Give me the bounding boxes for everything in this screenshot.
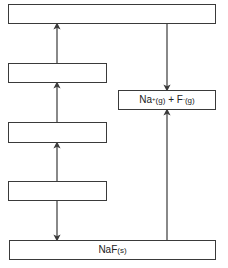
energy-level-left-2 bbox=[8, 63, 107, 83]
plus-joiner: + bbox=[165, 95, 176, 105]
energy-level-left-4 bbox=[8, 181, 107, 201]
sodium-ion-state: (g) bbox=[156, 97, 166, 105]
naf-state: (s) bbox=[117, 247, 126, 255]
sodium-ion-symbol: Na bbox=[139, 95, 152, 105]
energy-level-left-3 bbox=[8, 122, 107, 143]
energy-level-top bbox=[8, 4, 216, 24]
solid-compound-box: NaF(s) bbox=[9, 240, 216, 260]
fluoride-ion-state: (g) bbox=[185, 97, 195, 105]
gaseous-ions-box: Na+(g) + F-(g) bbox=[118, 90, 216, 110]
naf-symbol: NaF bbox=[98, 245, 117, 255]
